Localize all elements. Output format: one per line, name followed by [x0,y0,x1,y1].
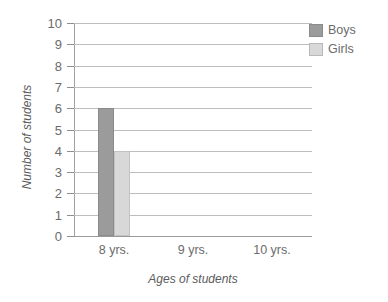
legend-label-girls: Girls [328,42,354,56]
bar-boys-8yrs [98,108,114,236]
y-axis-tick-label: 3 [38,166,62,179]
y-axis-tick-mark [67,87,74,88]
bar-girls-8yrs [114,151,130,236]
legend-item-girls: Girls [309,40,356,58]
y-axis-tick-mark [67,23,74,24]
y-axis-tick-mark [67,215,74,216]
y-axis-tick-label: 6 [38,102,62,115]
legend-swatch-girls [309,43,323,56]
y-axis-title: Number of students [20,52,34,222]
bar-chart: Number of students 109876543210 8 yrs.9 … [0,0,388,302]
y-axis-tick-label: 4 [38,145,62,158]
y-axis-tick-label: 1 [38,209,62,222]
legend-label-boys: Boys [328,23,356,37]
y-axis-tick-mark [67,108,74,109]
gridline [74,236,312,237]
y-axis-tick-label: 9 [38,38,62,51]
legend-item-boys: Boys [309,21,356,39]
y-axis-tick-label: 0 [38,230,62,243]
y-axis-tick-mark [67,193,74,194]
y-axis-tick-label: 8 [38,60,62,73]
y-axis-tick-label: 2 [38,187,62,200]
x-axis-title: Ages of students [74,272,312,286]
chart-legend: Boys Girls [309,21,356,59]
y-axis-tick-label: 5 [38,124,62,137]
y-axis-tick-mark [67,44,74,45]
x-axis-tick-label: 8 yrs. [69,243,159,257]
y-axis-tick-label: 10 [38,17,62,30]
y-axis-tick-mark [67,66,74,67]
y-axis-tick-mark [67,151,74,152]
y-axis-tick-mark [67,236,74,237]
x-axis-tick-label: 9 yrs. [148,243,238,257]
plot-area [74,23,312,236]
y-axis-tick-mark [67,130,74,131]
y-axis-tick-label: 7 [38,81,62,94]
legend-swatch-boys [309,24,323,37]
x-axis-tick-label: 10 yrs. [227,243,317,257]
y-axis-tick-mark [67,172,74,173]
